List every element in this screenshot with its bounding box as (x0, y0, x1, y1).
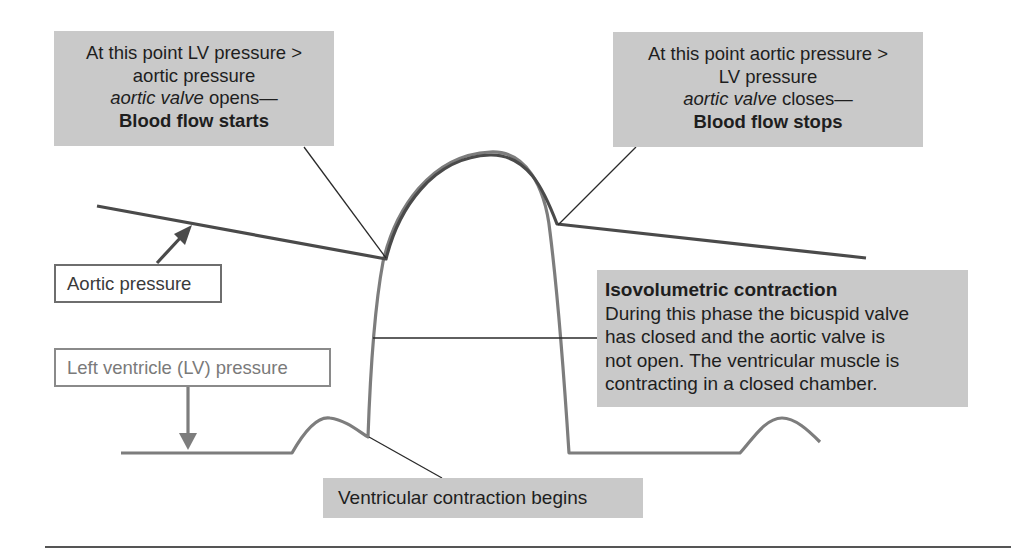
callout-isovolumetric: Isovolumetric contraction During this ph… (597, 270, 968, 407)
callout-contraction-begins: Ventricular contraction begins (323, 478, 643, 518)
callout-valve-closes-rest: closes— (777, 88, 853, 109)
callout-contraction-begins-label: Ventricular contraction begins (338, 487, 587, 508)
aortic-pressure-curve (97, 155, 866, 259)
callout-valve-opens: At this point LV pressure > aortic press… (54, 31, 334, 146)
callout-isovolumetric-heading: Isovolumetric contraction (605, 278, 968, 302)
callout-valve-opens-line1: At this point LV pressure > (54, 42, 334, 65)
callout-valve-closes: At this point aortic pressure > LV press… (613, 32, 923, 147)
callout-valve-closes-emphasis: Blood flow stops (613, 111, 923, 134)
legend-lv-pressure: Left ventricle (LV) pressure (54, 348, 331, 387)
callout-valve-opens-line3: aortic valve opens— (54, 87, 334, 110)
callout-isovolumetric-line1: During this phase the bicuspid valve (605, 302, 968, 326)
arrow-down-icon (179, 387, 197, 450)
callout-valve-closes-line1: At this point aortic pressure > (613, 43, 923, 66)
callout-isovolumetric-line2: has closed and the aortic valve is (605, 325, 968, 349)
callout-isovolumetric-line4: contracting in a closed chamber. (605, 372, 968, 396)
callout-valve-opens-line2: aortic pressure (54, 65, 334, 88)
callout-valve-opens-rest: opens— (204, 87, 278, 108)
callout-isovolumetric-line3: not open. The ventricular muscle is (605, 349, 968, 373)
arrow-up-right-icon (157, 225, 192, 263)
leader-valve-closes (558, 147, 636, 225)
callout-valve-closes-italic: aortic valve (683, 88, 777, 109)
callout-valve-opens-emphasis: Blood flow starts (54, 110, 334, 133)
callout-valve-closes-line3: aortic valve closes— (613, 88, 923, 111)
callout-valve-opens-italic: aortic valve (110, 87, 204, 108)
leader-contraction-begins (369, 437, 442, 478)
leader-valve-opens (304, 147, 386, 258)
legend-aortic-pressure: Aortic pressure (54, 264, 222, 303)
legend-lv-pressure-label: Left ventricle (LV) pressure (67, 357, 288, 378)
callout-valve-closes-line2: LV pressure (613, 66, 923, 89)
legend-aortic-pressure-label: Aortic pressure (67, 273, 191, 294)
